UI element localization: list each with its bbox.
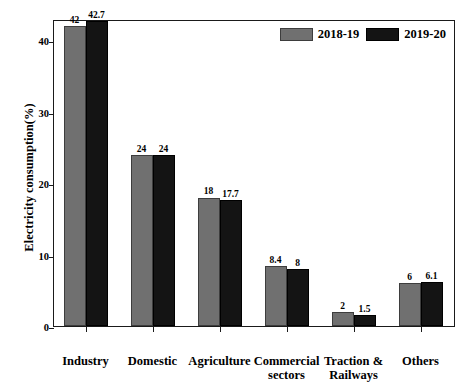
legend-item-2018-19: 2018-19 xyxy=(280,27,360,42)
y-tick-mark xyxy=(49,185,54,186)
bar-value-label: 42.7 xyxy=(74,11,120,21)
bar xyxy=(220,200,242,326)
y-tick-label: 20 xyxy=(25,180,49,191)
bar xyxy=(421,282,443,326)
y-tick-mark xyxy=(49,114,54,115)
bar xyxy=(153,155,175,326)
plot-inner: 010203040Industry4242.7Domestic2424Agric… xyxy=(54,21,454,326)
y-tick-label: 40 xyxy=(25,37,49,48)
bar-value-label: 17.7 xyxy=(208,190,254,200)
x-tick-label-line: Others xyxy=(373,354,469,368)
y-tick-label: 10 xyxy=(25,251,49,262)
chart-legend: 2018-19 2019-20 xyxy=(280,27,446,42)
bar xyxy=(287,269,309,326)
y-tick-mark xyxy=(49,328,54,329)
bar-value-label: 24 xyxy=(141,145,187,155)
legend-label-2018-19: 2018-19 xyxy=(318,27,360,42)
plot-area: 010203040Industry4242.7Domestic2424Agric… xyxy=(53,20,455,327)
bar-value-label: 6.1 xyxy=(409,272,455,282)
bar xyxy=(86,21,108,326)
legend-swatch-gray xyxy=(280,28,313,41)
x-tick-label-line: Railways xyxy=(306,368,402,382)
bar-value-label: 1.5 xyxy=(342,305,388,315)
bar xyxy=(64,26,86,326)
legend-label-2019-20: 2019-20 xyxy=(404,27,446,42)
bar xyxy=(354,315,376,326)
bar xyxy=(265,266,287,326)
legend-item-2019-20: 2019-20 xyxy=(366,27,446,42)
bar xyxy=(198,198,220,327)
x-tick-mark xyxy=(287,326,288,332)
x-tick-mark xyxy=(421,326,422,332)
x-tick-mark xyxy=(354,326,355,332)
bar xyxy=(131,155,153,326)
y-axis-title: Electricity consumption(%) xyxy=(22,53,37,303)
x-tick-mark xyxy=(220,326,221,332)
y-tick-mark xyxy=(49,257,54,258)
bar xyxy=(399,283,421,326)
y-tick-label: 30 xyxy=(25,109,49,120)
x-tick-mark xyxy=(86,326,87,332)
x-tick-label: Others xyxy=(373,354,469,368)
y-tick-label: 0 xyxy=(25,323,49,334)
legend-swatch-black xyxy=(366,28,399,41)
x-tick-mark xyxy=(153,326,154,332)
bar-value-label: 8 xyxy=(275,259,321,269)
y-tick-mark xyxy=(49,42,54,43)
